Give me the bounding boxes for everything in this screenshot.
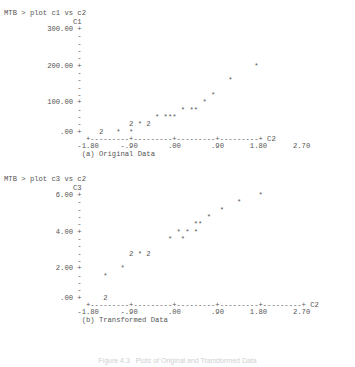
plot-caption: (a) Original Data [4, 151, 155, 158]
plot-caption: (b) Transformed Data [4, 317, 168, 324]
figure-caption: Figure 4.3 Plots of Original and Transfo… [0, 357, 355, 367]
plot-b-command: MTB > plot c3 vs c2 [4, 176, 86, 183]
plot-a-command: MTB > plot c1 vs c2 [4, 10, 86, 17]
